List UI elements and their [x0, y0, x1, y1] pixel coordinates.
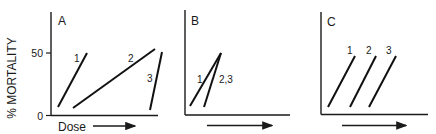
panel-a: 50 0 A 1 2 3 Dose: [31, 12, 162, 134]
panel-b-label: B: [191, 14, 199, 28]
panel-b-curve-2-3-label: 2,3: [219, 74, 233, 85]
panel-a-curve-2-label: 2: [128, 53, 134, 64]
panel-a-curve-1: [58, 53, 87, 107]
panel-b-curve-1: [190, 53, 221, 106]
panel-a-curve-3-label: 3: [147, 73, 153, 84]
panel-c-curve-1: [328, 56, 355, 107]
panel-c-curve-1-label: 1: [347, 45, 353, 56]
panel-c-curve-2-label: 2: [366, 45, 372, 56]
x-axis-label-dose: Dose: [58, 120, 86, 134]
panel-a-label: A: [58, 14, 66, 28]
panel-b: B 1 2,3: [185, 10, 290, 126]
panel-c-curve-3-label: 3: [386, 45, 392, 56]
panel-c: C 1 2 3: [321, 12, 428, 126]
panel-c-label: C: [327, 15, 336, 29]
panel-a-curve-1-label: 1: [74, 53, 80, 64]
panel-b-curve-1-label: 1: [197, 74, 203, 85]
mortality-dose-figure: % MORTALITY 50 0 A 1 2 3 Dose B 1 2,3: [0, 0, 436, 134]
tick-label-50: 50: [31, 47, 43, 59]
svg-text:% MORTALITY: % MORTALITY: [5, 37, 19, 119]
y-axis-label: % MORTALITY: [5, 37, 19, 119]
tick-label-0: 0: [37, 110, 43, 122]
